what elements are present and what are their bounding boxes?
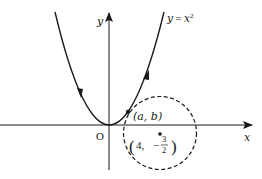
direction-arrow-right-icon	[143, 70, 149, 80]
y-axis-label: y	[96, 15, 104, 28]
svg-text:2: 2	[162, 145, 166, 155]
point-label: (a, b)	[133, 110, 162, 123]
diagram-canvas: y y = x2 (a, b) O x ( 4, − 3 2 )	[0, 0, 262, 179]
point-a-b-marker	[126, 110, 130, 114]
svg-text:4,: 4,	[136, 139, 145, 151]
origin-label: O	[96, 130, 104, 142]
center-label: ( 4, − 3 2 )	[129, 134, 177, 156]
x-axis-label: x	[244, 131, 251, 144]
curve-label: y = x2	[166, 12, 194, 24]
svg-text:(: (	[129, 137, 135, 156]
svg-text:): )	[171, 137, 177, 156]
svg-text:−: −	[153, 139, 159, 151]
svg-text:3: 3	[162, 134, 166, 144]
